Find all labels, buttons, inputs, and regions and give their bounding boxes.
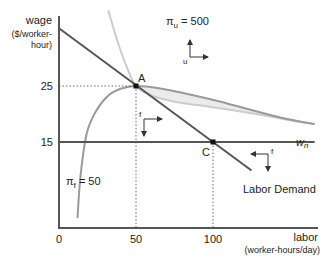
y-tick-label-25: 25 <box>41 80 53 92</box>
firm-arrow-label-c: f <box>271 147 274 156</box>
firm-direction-arrows-c: f <box>251 147 274 171</box>
x-tick-label-50: 50 <box>130 233 142 245</box>
point-c-marker <box>211 140 216 145</box>
x-axis-units: (worker-hours/day) <box>244 245 320 255</box>
y-axis-units-line1: ($/worker- <box>11 29 52 39</box>
pi-f-label-value: = 50 <box>76 175 101 187</box>
y-tick-label-15: 15 <box>41 136 53 148</box>
x-axis-label: labor <box>294 231 319 243</box>
chart: wage ($/worker- hour) labor (worker-hour… <box>0 0 328 268</box>
firm-direction-arrows-a: f <box>139 110 162 136</box>
pi-f-label: πf = 50 <box>66 175 101 190</box>
point-a-marker <box>134 84 139 89</box>
pi-u-curve <box>108 10 314 124</box>
pi-u-label: πu = 500 <box>166 15 209 30</box>
labor-demand-line <box>59 28 252 170</box>
point-a-label: A <box>138 72 146 84</box>
point-c-label: C <box>202 146 210 158</box>
wn-label: wn <box>296 136 309 150</box>
y-axis-units-line2: hour) <box>31 40 52 50</box>
x-tick-label-100: 100 <box>204 233 222 245</box>
union-arrow-label: u <box>183 57 187 66</box>
x-tick-label-0: 0 <box>56 233 62 245</box>
union-direction-arrows: u <box>183 40 208 66</box>
y-axis-label: wage <box>25 14 52 26</box>
wn-label-sub: n <box>304 141 309 150</box>
labor-demand-label: Labor Demand <box>243 183 316 195</box>
pi-u-label-value: = 500 <box>178 15 209 27</box>
firm-arrow-label-a: f <box>139 110 142 119</box>
